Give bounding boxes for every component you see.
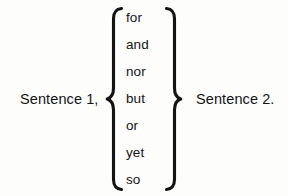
list-item: and <box>126 37 149 53</box>
right-curly-brace-icon <box>162 6 184 192</box>
list-item: or <box>126 118 138 134</box>
list-item: for <box>126 10 142 26</box>
left-curly-brace-icon <box>104 6 126 192</box>
conjunction-diagram: Sentence 1, for and nor but or yet so Se… <box>0 0 289 196</box>
left-clause-label: Sentence 1, <box>20 88 99 110</box>
list-item: yet <box>126 145 144 161</box>
right-clause-label: Sentence 2. <box>196 88 275 110</box>
list-item: so <box>126 172 140 188</box>
conjunction-list: for and nor but or yet so <box>126 6 162 192</box>
list-item: nor <box>126 64 146 80</box>
list-item: but <box>126 91 145 107</box>
